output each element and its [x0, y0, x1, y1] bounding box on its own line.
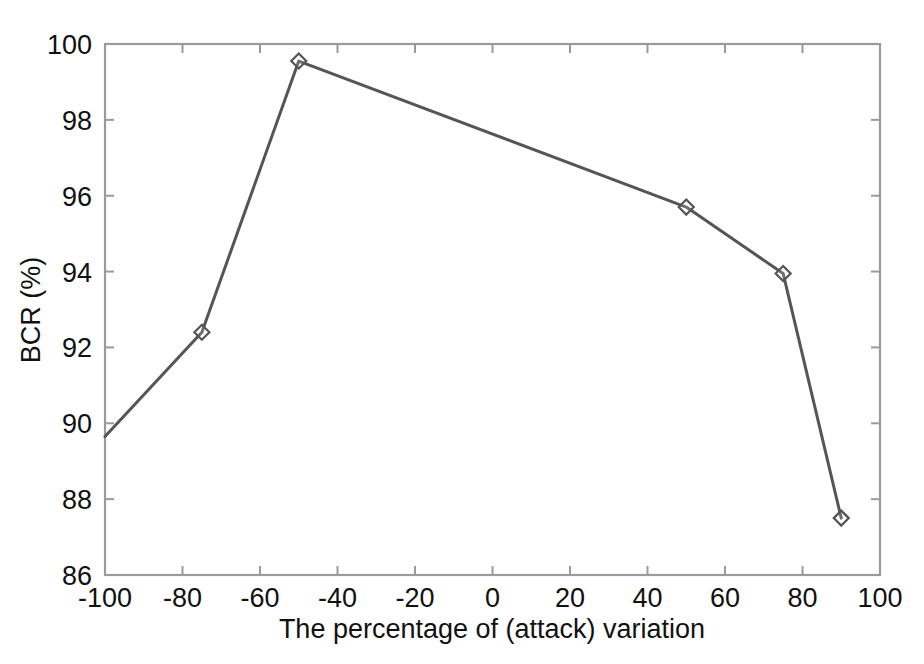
y-axis-tick-label: 86 — [62, 561, 92, 591]
y-axis-label: BCR (%) — [16, 257, 46, 364]
x-axis-tick-label: -80 — [163, 583, 202, 613]
x-axis-tick-label: -20 — [395, 583, 434, 613]
x-axis-tick-label: 100 — [857, 583, 902, 613]
figure-background — [0, 0, 924, 664]
x-axis-tick-label: 60 — [710, 583, 740, 613]
x-axis-tick-label: 40 — [632, 583, 662, 613]
x-axis-tick-label: 0 — [485, 583, 500, 613]
y-axis-tick-label: 88 — [62, 485, 92, 515]
x-axis-tick-label: -40 — [318, 583, 357, 613]
y-axis-tick-label: 98 — [62, 106, 92, 136]
x-axis-tick-label: 80 — [787, 583, 817, 613]
y-axis-tick-label: 96 — [62, 182, 92, 212]
y-axis-tick-label: 92 — [62, 333, 92, 363]
y-axis-tick-label: 90 — [62, 409, 92, 439]
y-axis-tick-label: 94 — [62, 258, 92, 288]
x-axis-label: The percentage of (attack) variation — [279, 614, 705, 644]
y-axis-tick-label: 100 — [47, 30, 92, 60]
x-axis-tick-label: -60 — [240, 583, 279, 613]
x-axis-tick-label: 20 — [555, 583, 585, 613]
chart-figure: -100-80-60-40-20020406080100868890929496… — [0, 0, 924, 664]
